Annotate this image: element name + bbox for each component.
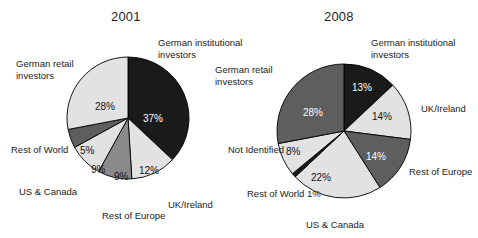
slice-value-label: 14% [366, 152, 386, 162]
pie-chart-2008 [0, 0, 478, 238]
pie-chart-figure: 2001 2008 37%12%9%9%5%28%German institut… [0, 0, 478, 238]
slice-value-label: 28% [303, 108, 323, 118]
slice-value-label: 12% [139, 166, 159, 176]
slice-callout-label: Rest of World [11, 144, 68, 156]
slice-callout-label: US & Canada [19, 186, 77, 198]
slice-callout-label: UK/Ireland [168, 199, 213, 211]
slice-value-label: 5% [80, 146, 94, 156]
slice-value-label: 9% [114, 172, 128, 182]
slice-value-label: 37% [143, 114, 163, 124]
slice-callout-label: UK/Ireland [421, 103, 466, 115]
slice-callout-label: German institutional investors [371, 37, 463, 60]
slice-callout-label: Not Identified [228, 144, 284, 156]
slice-value-label: 9% [91, 165, 105, 175]
slice-callout-label: US & Canada [306, 219, 364, 231]
slice-value-label: 13% [352, 83, 372, 93]
slice-callout-label: German retail investors [16, 58, 108, 81]
slice-value-label: 28% [95, 102, 115, 112]
slice-callout-label: Rest of World 1% [247, 188, 321, 200]
slice-value-label: 8% [286, 147, 300, 157]
slice-callout-label: German institutional investors [158, 37, 250, 60]
slice-callout-label: Rest of Europe [409, 166, 472, 178]
slice-callout-label: German retail investors [215, 64, 307, 87]
slice-callout-label: Rest of Europe [102, 210, 165, 222]
slice-value-label: 14% [372, 112, 392, 122]
slice-value-label: 22% [311, 173, 331, 183]
